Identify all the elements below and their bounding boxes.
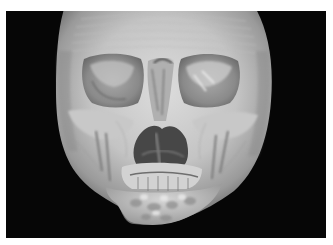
right-orbit <box>178 54 240 108</box>
ct-skull-image: 3D CT reconstruction of skull (frontal v… <box>6 11 326 238</box>
skull-render <box>6 11 326 238</box>
maxilla-teeth <box>121 163 202 191</box>
left-orbit <box>82 54 144 108</box>
